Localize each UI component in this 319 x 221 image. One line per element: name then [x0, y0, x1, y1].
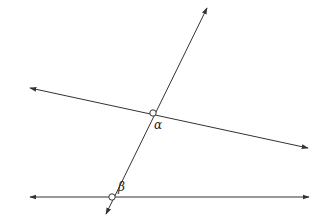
alpha-intersection-point	[150, 110, 156, 116]
parallel-lines-diagram: α β	[0, 0, 319, 221]
diagram-canvas: α β	[0, 0, 319, 221]
beta-label: β	[117, 180, 125, 194]
alpha-label: α	[154, 118, 162, 132]
beta-intersection-point	[109, 194, 115, 200]
upper-line	[30, 88, 308, 148]
